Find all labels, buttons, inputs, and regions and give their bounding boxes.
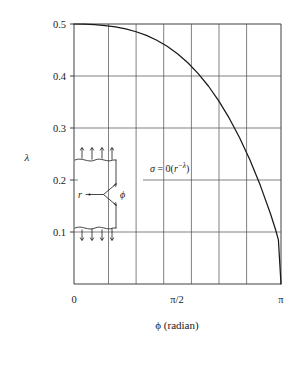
ytick-label-0.1: 0.1 <box>53 227 66 238</box>
plot-frame <box>74 24 281 284</box>
ytick-label-0.4: 0.4 <box>53 71 67 82</box>
lambda-curve <box>74 24 281 284</box>
lambda-vs-phi-chart: 0.5 0.4 0.3 0.2 0.1 λ 0 π/2 π ϕ (radian) <box>0 0 298 366</box>
inset-arrow-up-4 <box>110 147 114 159</box>
inset-arrow-up-3 <box>100 147 104 158</box>
sigma-symbol: σ <box>150 163 156 174</box>
inset-v-notch-flanks <box>104 184 117 205</box>
inset-bottom-wavy-edge <box>75 227 116 229</box>
stress-singularity-annotation: σ=0(r−λ) <box>150 161 189 175</box>
x-axis-tick-labels: 0 π/2 π <box>71 294 284 305</box>
inset-arrow-down-2 <box>90 228 94 240</box>
inset-top-wavy-edge <box>75 159 116 161</box>
y-axis-ticks <box>70 24 74 232</box>
ytick-label-0.5: 0.5 <box>53 19 66 30</box>
inset-radius-label: r <box>78 189 82 200</box>
inset-radius-dot <box>88 193 90 195</box>
x-axis-title: ϕ (radian) <box>155 319 199 332</box>
ytick-label-0.2: 0.2 <box>53 175 66 186</box>
inset-arrow-up-2 <box>90 147 94 159</box>
y-axis-tick-labels: 0.5 0.4 0.3 0.2 0.1 <box>53 19 67 238</box>
ytick-label-0.3: 0.3 <box>53 123 66 134</box>
y-axis-title: λ <box>24 151 30 163</box>
inset-v-notch-diagram: r ϕ <box>75 147 125 240</box>
xtick-label-pi-2: π/2 <box>170 294 183 305</box>
inset-arrow-down-4 <box>110 228 114 240</box>
vertical-gridlines <box>109 24 247 284</box>
inset-angle-markers <box>114 184 117 206</box>
inset-angle-label: ϕ <box>120 189 125 200</box>
inset-arrow-down-3 <box>100 229 104 240</box>
sigma-annotation-text: σ=0(r−λ) <box>150 161 189 175</box>
xtick-label-0: 0 <box>71 294 76 305</box>
horizontal-gridlines <box>74 76 281 232</box>
xtick-label-pi: π <box>278 294 284 305</box>
inset-arrow-up-1 <box>80 147 84 158</box>
inset-arrow-down-1 <box>80 230 84 241</box>
sigma-close-paren: ) <box>186 163 189 175</box>
sigma-equals: = <box>157 163 163 174</box>
figure-container: 0.5 0.4 0.3 0.2 0.1 λ 0 π/2 π ϕ (radian) <box>0 0 298 366</box>
